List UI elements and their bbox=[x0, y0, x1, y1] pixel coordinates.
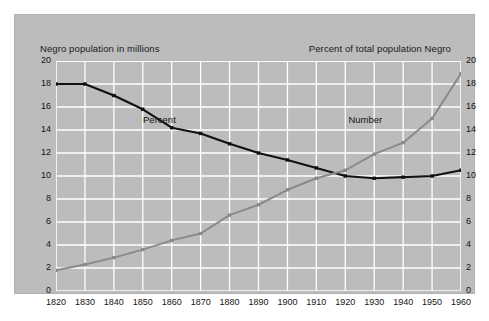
data-point bbox=[112, 94, 115, 97]
y-tick-left-18: 18 bbox=[29, 78, 51, 88]
data-point bbox=[257, 151, 260, 154]
y-tick-right-6: 6 bbox=[466, 216, 488, 226]
data-point bbox=[344, 174, 347, 177]
data-point bbox=[315, 166, 318, 169]
data-point bbox=[401, 141, 404, 144]
data-point bbox=[344, 169, 347, 172]
data-point bbox=[83, 263, 86, 266]
y-tick-left-12: 12 bbox=[29, 147, 51, 157]
left-axis-title: Negro population in millions bbox=[40, 43, 160, 54]
y-tick-right-20: 20 bbox=[466, 55, 488, 65]
y-tick-right-10: 10 bbox=[466, 170, 488, 180]
data-point bbox=[286, 188, 289, 191]
data-point bbox=[228, 142, 231, 145]
data-point bbox=[141, 108, 144, 111]
plot-area bbox=[56, 61, 461, 291]
y-tick-left-6: 6 bbox=[29, 216, 51, 226]
series-line-number bbox=[56, 74, 461, 271]
y-tick-left-16: 16 bbox=[29, 101, 51, 111]
y-tick-left-14: 14 bbox=[29, 124, 51, 134]
data-point bbox=[373, 152, 376, 155]
x-tick-1960: 1960 bbox=[444, 297, 478, 307]
y-tick-right-12: 12 bbox=[466, 147, 488, 157]
right-axis-title: Percent of total population Negro bbox=[309, 43, 451, 54]
y-tick-right-16: 16 bbox=[466, 101, 488, 111]
data-point bbox=[199, 232, 202, 235]
data-point bbox=[141, 248, 144, 251]
data-point bbox=[228, 213, 231, 216]
data-point bbox=[401, 175, 404, 178]
series-label-number: Number bbox=[348, 114, 382, 125]
y-tick-left-4: 4 bbox=[29, 239, 51, 249]
data-point bbox=[56, 82, 58, 85]
y-tick-right-14: 14 bbox=[466, 124, 488, 134]
data-point bbox=[83, 82, 86, 85]
y-tick-left-20: 20 bbox=[29, 55, 51, 65]
y-tick-right-18: 18 bbox=[466, 78, 488, 88]
series-label-percent: Percent bbox=[143, 114, 176, 125]
y-tick-right-0: 0 bbox=[466, 285, 488, 295]
data-point bbox=[315, 177, 318, 180]
y-tick-left-10: 10 bbox=[29, 170, 51, 180]
y-tick-left-2: 2 bbox=[29, 262, 51, 272]
y-tick-left-0: 0 bbox=[29, 285, 51, 295]
data-point bbox=[170, 239, 173, 242]
data-point bbox=[56, 269, 58, 272]
y-tick-right-8: 8 bbox=[466, 193, 488, 203]
chart-figure: Negro population in millions Percent of … bbox=[0, 0, 489, 321]
data-point bbox=[459, 169, 461, 172]
data-point bbox=[286, 158, 289, 161]
data-series-layer bbox=[56, 61, 461, 291]
data-point bbox=[170, 126, 173, 129]
data-point bbox=[199, 132, 202, 135]
data-point bbox=[257, 203, 260, 206]
y-tick-right-2: 2 bbox=[466, 262, 488, 272]
series-line-percent bbox=[56, 84, 461, 178]
data-point bbox=[373, 177, 376, 180]
data-point bbox=[430, 174, 433, 177]
y-tick-right-4: 4 bbox=[466, 239, 488, 249]
data-point bbox=[459, 72, 461, 75]
y-tick-left-8: 8 bbox=[29, 193, 51, 203]
chart-panel: Negro population in millions Percent of … bbox=[14, 14, 475, 294]
data-point bbox=[430, 117, 433, 120]
data-point bbox=[112, 256, 115, 259]
